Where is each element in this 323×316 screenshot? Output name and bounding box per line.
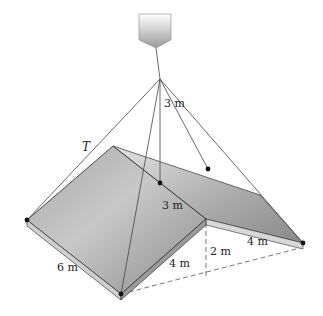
hook-block — [139, 14, 171, 79]
diagram-graphics — [0, 0, 323, 316]
cable-height-label: 3 m — [164, 97, 185, 110]
front-depth-label: 4 m — [169, 257, 190, 270]
ridge-drop-label: 3 m — [162, 199, 183, 212]
cable-back — [160, 79, 208, 169]
roof-cable-diagram: T 3 m 3 m 6 m 4 m 2 m 4 m — [0, 0, 323, 316]
left-edge-label: 6 m — [57, 261, 78, 274]
wall-height-label: 2 m — [210, 245, 231, 258]
tension-label: T — [82, 140, 90, 154]
right-edge-label: 4 m — [247, 235, 268, 248]
